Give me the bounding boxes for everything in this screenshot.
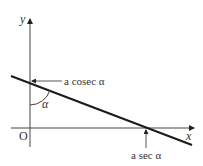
x-intercept-label: a sec α — [131, 149, 161, 161]
y-intercept-label: a cosec α — [64, 75, 105, 87]
origin-label: O — [19, 129, 28, 143]
angle-label: α — [42, 97, 49, 111]
x-axis-label: x — [185, 129, 192, 143]
coordinate-diagram: y x O α a cosec α a sec α — [0, 0, 203, 166]
y-axis-label: y — [19, 12, 26, 26]
